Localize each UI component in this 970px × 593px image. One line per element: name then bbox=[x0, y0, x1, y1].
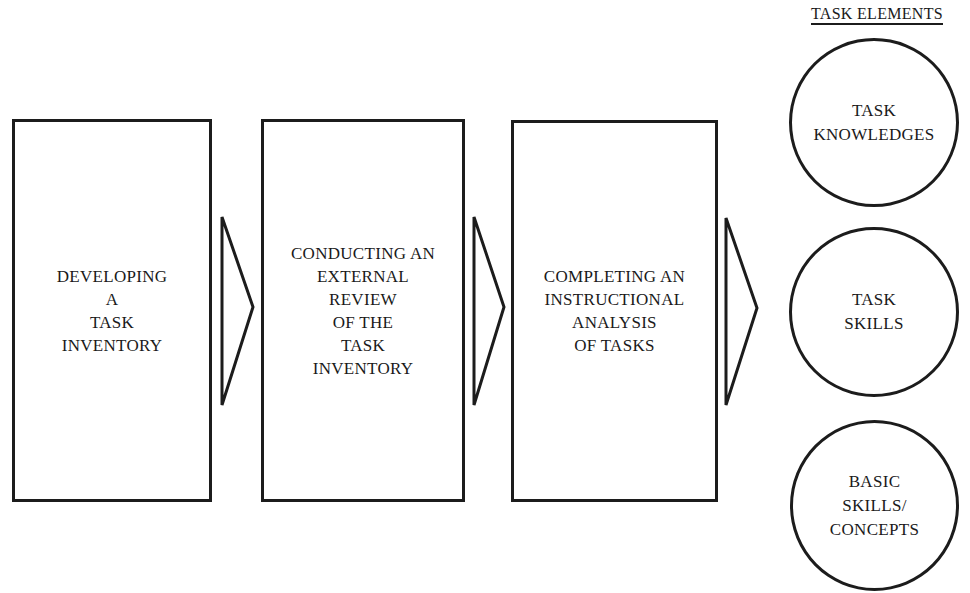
step-box-instructional-analysis: COMPLETING AN INSTRUCTIONAL ANALYSIS OF … bbox=[511, 120, 718, 502]
label-line: OF THE bbox=[291, 311, 435, 334]
arrow-right-icon bbox=[722, 213, 764, 411]
label-line: TASK bbox=[844, 288, 903, 312]
label-line: SKILLS/ bbox=[830, 494, 919, 518]
element-label: TASK KNOWLEDGES bbox=[813, 99, 934, 147]
step-label: DEVELOPING A TASK INVENTORY bbox=[57, 265, 168, 357]
task-elements-heading: TASK ELEMENTS bbox=[787, 5, 967, 23]
label-line: INVENTORY bbox=[57, 334, 168, 357]
label-line: ANALYSIS bbox=[544, 311, 685, 334]
task-element-task-skills: TASK SKILLS bbox=[789, 227, 959, 397]
label-line: COMPLETING AN bbox=[544, 265, 685, 288]
label-line: BASIC bbox=[830, 470, 919, 494]
step-box-developing-task-inventory: DEVELOPING A TASK INVENTORY bbox=[12, 119, 212, 502]
label-line: REVIEW bbox=[291, 288, 435, 311]
step-box-external-review: CONDUCTING AN EXTERNAL REVIEW OF THE TAS… bbox=[261, 119, 465, 502]
label-line: KNOWLEDGES bbox=[813, 123, 934, 147]
label-line: OF TASKS bbox=[544, 334, 685, 357]
arrow-right-icon bbox=[470, 212, 512, 410]
label-line: CONCEPTS bbox=[830, 518, 919, 542]
label-line: TASK bbox=[813, 99, 934, 123]
arrow-right-icon bbox=[218, 212, 260, 410]
label-line: INSTRUCTIONAL bbox=[544, 288, 685, 311]
element-label: TASK SKILLS bbox=[844, 288, 903, 336]
heading-text: TASK ELEMENTS bbox=[811, 5, 943, 25]
task-element-basic-skills-concepts: BASIC SKILLS/ CONCEPTS bbox=[790, 420, 959, 591]
label-line: INVENTORY bbox=[291, 357, 435, 380]
label-line: EXTERNAL bbox=[291, 265, 435, 288]
label-line: TASK bbox=[291, 334, 435, 357]
step-label: CONDUCTING AN EXTERNAL REVIEW OF THE TAS… bbox=[291, 242, 435, 380]
label-line: CONDUCTING AN bbox=[291, 242, 435, 265]
step-label: COMPLETING AN INSTRUCTIONAL ANALYSIS OF … bbox=[544, 265, 685, 357]
label-line: A bbox=[57, 288, 168, 311]
label-line: DEVELOPING bbox=[57, 265, 168, 288]
element-label: BASIC SKILLS/ CONCEPTS bbox=[830, 470, 919, 542]
task-element-task-knowledges: TASK KNOWLEDGES bbox=[789, 38, 959, 207]
label-line: SKILLS bbox=[844, 312, 903, 336]
label-line: TASK bbox=[57, 311, 168, 334]
